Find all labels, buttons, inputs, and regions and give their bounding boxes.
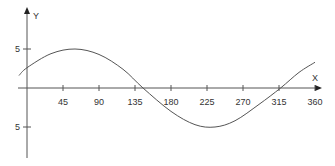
sine-wave-chart: Y X 4590135180225270315360 55 <box>0 0 335 166</box>
x-tick-label: 135 <box>127 97 142 107</box>
y-tick-label: 5 <box>15 44 20 54</box>
y-axis-label: Y <box>33 11 39 21</box>
x-tick-label: 315 <box>271 97 286 107</box>
x-axis: X <box>18 73 322 91</box>
x-tick-label: 225 <box>199 97 214 107</box>
x-tick-label: 270 <box>235 97 250 107</box>
x-tick-label: 90 <box>94 97 104 107</box>
x-axis-arrow-icon <box>315 85 322 91</box>
x-tick-label: 45 <box>58 97 68 107</box>
x-tick-label: 180 <box>163 97 178 107</box>
y-axis: Y <box>24 7 39 158</box>
y-axis-arrow-icon <box>24 7 30 14</box>
x-tick-label: 360 <box>307 97 322 107</box>
x-axis-label: X <box>312 73 318 83</box>
y-tick-label: 5 <box>15 122 20 132</box>
